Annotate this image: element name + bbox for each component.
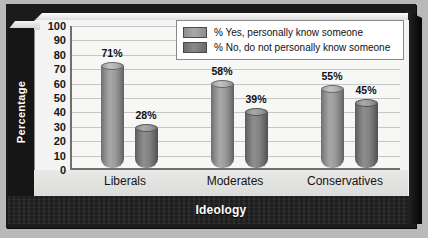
y-axis-title: Percentage bbox=[8, 28, 34, 196]
legend-label-no: % No, do not personally know someone bbox=[214, 42, 390, 53]
chart-legend: % Yes, personally know someone % No, do … bbox=[176, 20, 404, 60]
legend-swatch-no bbox=[183, 42, 207, 53]
legend-label-yes: % Yes, personally know someone bbox=[214, 27, 363, 38]
y-axis-tick-label: 60 bbox=[54, 78, 66, 89]
bar-body bbox=[245, 112, 268, 168]
y-axis-tick-labels: 1009080706050403020100 bbox=[36, 26, 66, 170]
y-axis-tick-label: 80 bbox=[54, 49, 66, 60]
bar: 45% bbox=[355, 103, 378, 168]
x-axis-title: Ideology bbox=[8, 198, 408, 222]
bar-top-ellipse bbox=[355, 99, 378, 107]
bar-top-ellipse bbox=[321, 85, 344, 93]
y-axis-tick-label: 100 bbox=[48, 21, 66, 32]
legend-item: % Yes, personally know someone bbox=[183, 25, 397, 40]
x-axis-tick-label: Conservatives bbox=[307, 174, 383, 188]
legend-swatch-yes bbox=[183, 27, 207, 38]
bar-top-ellipse bbox=[135, 124, 158, 132]
x-axis-tick-label: Liberals bbox=[104, 174, 146, 188]
y-axis-tick-label: 0 bbox=[60, 165, 66, 176]
bar-top-ellipse bbox=[101, 62, 124, 70]
y-axis-tick-label: 50 bbox=[54, 93, 66, 104]
bar-value-label: 45% bbox=[355, 84, 376, 96]
bar-value-label: 71% bbox=[101, 47, 122, 59]
x-axis-tick-label: Moderates bbox=[207, 174, 264, 188]
y-axis-tick-label: 30 bbox=[54, 121, 66, 132]
bar: 39% bbox=[245, 112, 268, 168]
y-axis-tick-label: 20 bbox=[54, 136, 66, 147]
bar-body bbox=[355, 103, 378, 168]
bar: 58% bbox=[211, 84, 234, 168]
y-axis-title-text: Percentage bbox=[15, 81, 27, 143]
bar-body bbox=[135, 128, 158, 168]
bar: 28% bbox=[135, 128, 158, 168]
y-axis-tick-label: 10 bbox=[54, 150, 66, 161]
bar-value-label: 58% bbox=[211, 65, 232, 77]
bar: 55% bbox=[321, 89, 344, 168]
bar-body bbox=[101, 66, 124, 168]
bar-body bbox=[321, 89, 344, 168]
bar-value-label: 28% bbox=[135, 109, 156, 121]
bar-top-ellipse bbox=[245, 108, 268, 116]
legend-item: % No, do not personally know someone bbox=[183, 40, 397, 55]
chart-container: Ideology Percentage 10090807060504030201… bbox=[0, 0, 428, 238]
bar-body bbox=[211, 84, 234, 168]
y-axis-tick-label: 70 bbox=[54, 64, 66, 75]
y-axis-tick-label: 90 bbox=[54, 35, 66, 46]
bar-value-label: 39% bbox=[245, 93, 266, 105]
y-axis-tick-label: 40 bbox=[54, 107, 66, 118]
bar-value-label: 55% bbox=[321, 70, 342, 82]
bar: 71% bbox=[101, 66, 124, 168]
